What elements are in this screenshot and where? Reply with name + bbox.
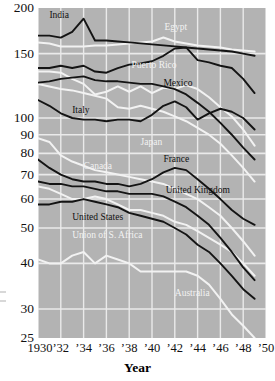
x-tick-1934: ’34 [75, 341, 92, 356]
y-tick-40: 40 [0, 255, 34, 271]
left-edge-mark [0, 291, 6, 293]
series-line [38, 138, 255, 255]
chart-canvas [38, 8, 266, 338]
plot-area [38, 8, 266, 338]
x-axis-title: Year [0, 360, 275, 376]
x-tick-1938: ’38 [121, 341, 138, 356]
y-tick-200: 200 [0, 0, 34, 16]
series-line [38, 159, 255, 224]
left-edge-mark-2 [0, 300, 6, 302]
x-tick-1940: ’40 [144, 341, 161, 356]
y-tick-30: 30 [0, 301, 34, 317]
x-tick-1950: ’50 [258, 341, 275, 356]
y-tick-50: 50 [0, 220, 34, 236]
series-line [38, 19, 255, 56]
x-tick-1946: ’46 [212, 341, 229, 356]
line-chart: 2001501009080706050403025 1930’32’34’36’… [0, 0, 275, 381]
x-tick-1930: 1930 [28, 341, 53, 356]
x-tick-1948: ’48 [235, 341, 252, 356]
x-tick-1944: ’44 [189, 341, 206, 356]
y-tick-100: 100 [0, 110, 34, 126]
x-tick-1942: ’42 [166, 341, 183, 356]
series-line [38, 199, 255, 299]
y-tick-80: 80 [0, 145, 34, 161]
y-tick-70: 70 [0, 167, 34, 183]
series-line [38, 84, 255, 182]
y-tick-90: 90 [0, 127, 34, 143]
y-tick-60: 60 [0, 191, 34, 207]
x-tick-1936: ’36 [98, 341, 115, 356]
x-tick-1932: ’32 [52, 341, 69, 356]
y-tick-150: 150 [0, 46, 34, 62]
